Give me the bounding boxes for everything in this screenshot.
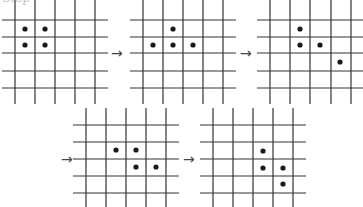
live-cell-dot — [280, 181, 285, 186]
live-cell-dot — [280, 165, 285, 170]
live-cell-dot — [317, 42, 322, 47]
grid-5 — [200, 108, 306, 207]
live-cell-dot — [153, 164, 158, 169]
grid-diagram — [0, 0, 363, 207]
live-cell-dot — [297, 26, 302, 31]
live-cell-dot — [133, 147, 138, 152]
live-cell-dot — [297, 42, 302, 47]
live-cell-dot — [170, 42, 175, 47]
grid-1 — [2, 0, 108, 104]
live-cell-dot — [133, 164, 138, 169]
grid-4 — [73, 108, 179, 207]
live-cell-dot — [42, 26, 47, 31]
glider-evolution-diagram: Step →→→→ — [0, 0, 363, 207]
live-cell-dot — [260, 148, 265, 153]
live-cell-dot — [260, 165, 265, 170]
right-arrow-icon: → — [61, 152, 73, 166]
live-cell-dot — [113, 147, 118, 152]
live-cell-dot — [190, 42, 195, 47]
cropped-caption: Step — [2, 0, 30, 5]
live-cell-dot — [42, 42, 47, 47]
live-cell-dot — [150, 42, 155, 47]
live-cell-dot — [22, 42, 27, 47]
live-cell-dot — [170, 26, 175, 31]
right-arrow-icon: → — [240, 46, 252, 60]
live-cell-dot — [337, 59, 342, 64]
live-cell-dot — [22, 26, 27, 31]
right-arrow-icon: → — [111, 46, 123, 60]
grid-3 — [257, 0, 363, 104]
right-arrow-icon: → — [183, 152, 195, 166]
grid-2 — [130, 0, 236, 104]
